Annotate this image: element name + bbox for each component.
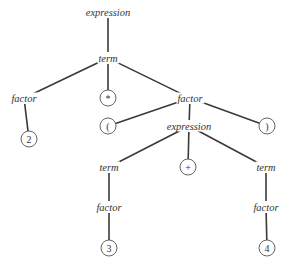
terminal-label: + [185,162,191,173]
nonterminal-node: term [255,162,277,173]
terminal-node: 2 [21,131,37,147]
nonterminal-label: factor [253,202,279,213]
nonterminal-label: factor [96,202,122,213]
nonterminal-label: term [98,53,118,64]
terminal-label: * [106,93,111,104]
tree-edge [25,104,28,131]
terminal-node: 3 [101,240,117,256]
nonterminal-node: factor [95,202,123,213]
nonterminal-node: factor [252,202,280,213]
terminal-node: ) [259,118,275,134]
tree-edge [189,104,190,120]
tree-edge [194,129,260,164]
nonterminal-label: expression [86,7,131,18]
terminal-node: * [100,90,116,106]
tree-edge [114,129,183,165]
terminal-label: 3 [107,243,112,254]
terminal-node: + [180,159,196,175]
nonterminal-label: factor [11,93,37,104]
tree-edge [188,132,189,159]
terminal-label: ) [265,121,268,133]
nonterminal-label: factor [177,93,203,104]
terminal-node: ( [100,118,116,134]
nonterminal-node: expression [166,121,213,132]
nonterminal-label: expression [167,121,212,132]
tree-edge [266,213,267,240]
nonterminal-node: expression [85,7,132,18]
parse-tree: expressiontermfactor*factor2(expression)… [0,0,289,270]
nonterminal-node: term [97,53,119,64]
nonterminal-node: term [98,162,120,173]
tree-edge [113,61,184,96]
nonterminal-node: factor [10,93,38,104]
terminal-node: 4 [259,240,275,256]
tree-edges [25,18,267,240]
tree-edge [29,61,102,96]
nonterminal-label: term [256,162,276,173]
nonterminal-label: term [99,162,119,173]
terminal-label: 4 [265,243,270,254]
tree-nodes: expressiontermfactor*factor2(expression)… [10,7,280,257]
nonterminal-node: factor [176,93,204,104]
terminal-label: 2 [27,134,32,145]
